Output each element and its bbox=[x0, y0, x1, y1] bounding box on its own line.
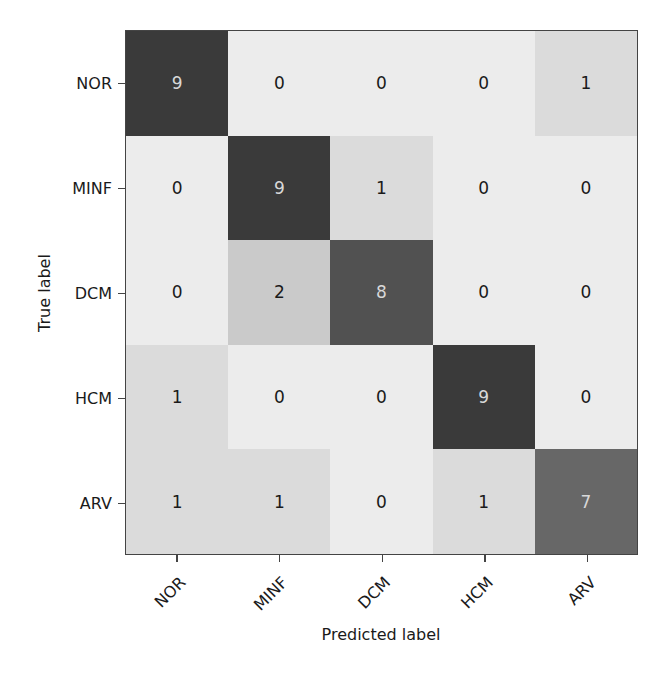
x-axis-label: Predicted label bbox=[322, 625, 441, 644]
confusion-matrix-grid: 9000109100028001009011017 bbox=[125, 30, 638, 555]
matrix-cell: 8 bbox=[330, 240, 432, 345]
matrix-cell: 0 bbox=[126, 136, 228, 241]
y-tick-mark bbox=[118, 293, 125, 295]
matrix-cell: 0 bbox=[535, 345, 637, 450]
x-tick-label: MINF bbox=[250, 573, 292, 615]
y-tick-label: MINF bbox=[0, 178, 112, 197]
matrix-cell: 0 bbox=[126, 240, 228, 345]
matrix-cell: 1 bbox=[126, 449, 228, 554]
matrix-cell: 0 bbox=[228, 31, 330, 136]
y-tick-label: NOR bbox=[0, 73, 112, 92]
matrix-cell: 0 bbox=[330, 449, 432, 554]
x-tick-mark bbox=[382, 555, 384, 562]
y-axis-label: True label bbox=[35, 254, 54, 332]
y-tick-mark bbox=[118, 398, 125, 400]
confusion-matrix-figure: 9000109100028001009011017 NORMINFDCMHCMA… bbox=[0, 0, 671, 675]
matrix-cell: 9 bbox=[126, 31, 228, 136]
matrix-cell: 0 bbox=[433, 240, 535, 345]
y-tick-label: ARV bbox=[0, 493, 112, 512]
y-tick-mark bbox=[118, 83, 125, 85]
y-tick-label: DCM bbox=[0, 283, 112, 302]
matrix-cell: 1 bbox=[433, 449, 535, 554]
matrix-cell: 9 bbox=[228, 136, 330, 241]
x-tick-mark bbox=[176, 555, 178, 562]
matrix-cell: 2 bbox=[228, 240, 330, 345]
x-tick-label: DCM bbox=[354, 573, 394, 613]
y-tick-label: HCM bbox=[0, 388, 112, 407]
x-tick-label: NOR bbox=[150, 573, 189, 612]
matrix-cell: 0 bbox=[535, 136, 637, 241]
y-tick-mark bbox=[118, 503, 125, 505]
matrix-cell: 9 bbox=[433, 345, 535, 450]
x-tick-mark bbox=[279, 555, 281, 562]
matrix-cell: 7 bbox=[535, 449, 637, 554]
x-tick-mark bbox=[484, 555, 486, 562]
x-tick-label: HCM bbox=[457, 573, 497, 613]
matrix-cell: 1 bbox=[330, 136, 432, 241]
matrix-cell: 1 bbox=[126, 345, 228, 450]
x-tick-mark bbox=[587, 555, 589, 562]
y-tick-mark bbox=[118, 188, 125, 190]
matrix-cell: 0 bbox=[330, 345, 432, 450]
matrix-cell: 0 bbox=[433, 136, 535, 241]
matrix-cell: 0 bbox=[433, 31, 535, 136]
matrix-cell: 1 bbox=[535, 31, 637, 136]
matrix-cell: 0 bbox=[330, 31, 432, 136]
matrix-cell: 1 bbox=[228, 449, 330, 554]
matrix-cell: 0 bbox=[535, 240, 637, 345]
matrix-cell: 0 bbox=[228, 345, 330, 450]
x-tick-label: ARV bbox=[563, 573, 599, 609]
